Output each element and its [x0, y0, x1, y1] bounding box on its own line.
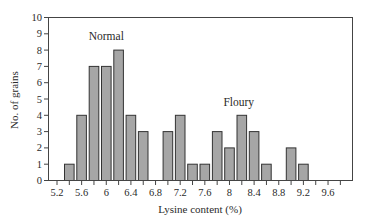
y-tick-label: 4 [37, 110, 43, 121]
histogram-bar [249, 132, 259, 181]
y-tick-label: 5 [37, 94, 42, 105]
histogram-bar [65, 164, 75, 180]
annotation-label: Floury [223, 96, 254, 109]
histogram-bar [126, 115, 136, 180]
y-tick-label: 6 [37, 77, 42, 88]
x-tick-label: 6.8 [149, 187, 162, 198]
x-tick-label: 9.2 [297, 187, 310, 198]
histogram-bar [286, 148, 296, 181]
x-tick-label: 6 [104, 187, 109, 198]
histogram-bar [102, 66, 112, 180]
histogram-bar [299, 164, 309, 180]
histogram-bar [200, 164, 210, 180]
histogram-bar [163, 132, 173, 181]
bars-group [65, 50, 309, 180]
y-tick-label: 2 [37, 142, 42, 153]
y-tick-label: 9 [37, 28, 42, 39]
histogram-bar [237, 115, 247, 180]
annotation-label: Normal [89, 30, 124, 42]
histogram-bar [89, 66, 99, 180]
x-tick-label: 9.6 [321, 187, 334, 198]
x-tick-label: 8 [227, 187, 232, 198]
y-tick-label: 1 [37, 159, 42, 170]
y-tick-label: 0 [37, 175, 42, 186]
y-tick-label: 10 [32, 12, 43, 23]
x-tick-label: 8.8 [272, 187, 285, 198]
x-tick-label: 5.2 [50, 187, 63, 198]
x-tick-label: 5.6 [75, 187, 88, 198]
histogram-bar [188, 164, 198, 180]
y-axis: 012345678910 [32, 12, 49, 186]
x-tick-label: 6.4 [124, 187, 138, 198]
x-tick-label: 7.2 [174, 187, 187, 198]
histogram-bar [138, 132, 148, 181]
x-axis-title: Lysine content (%) [158, 203, 242, 216]
x-axis: 5.25.666.46.87.27.688.48.89.29.6 [50, 181, 340, 199]
histogram-bar [225, 148, 235, 181]
histogram-bar [77, 115, 87, 180]
histogram-bar [212, 132, 222, 181]
y-tick-label: 8 [37, 45, 42, 56]
y-tick-label: 7 [37, 61, 42, 72]
histogram-bar [175, 115, 185, 180]
x-tick-label: 8.4 [248, 187, 262, 198]
histogram-chart: 012345678910 5.25.666.46.87.27.688.48.89… [0, 0, 365, 221]
histogram-bar [262, 164, 272, 180]
y-tick-label: 3 [37, 126, 42, 137]
y-axis-title: No. of grains [8, 71, 20, 129]
x-tick-label: 7.6 [198, 187, 211, 198]
histogram-bar [114, 50, 124, 180]
